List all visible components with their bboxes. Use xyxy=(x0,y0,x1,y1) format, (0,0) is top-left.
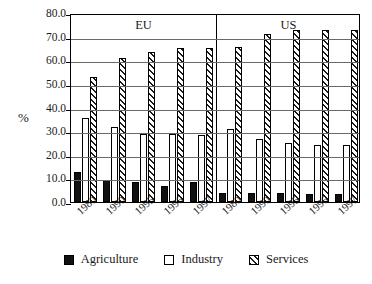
bar-agriculture-eu-1990 xyxy=(103,180,110,202)
y-tick-mark xyxy=(66,110,71,111)
gridline xyxy=(71,110,359,111)
y-tick-mark xyxy=(66,157,71,158)
y-tick-label: 50.0 xyxy=(24,79,66,91)
gridline xyxy=(71,39,359,40)
bar-agriculture-eu-1996 xyxy=(161,186,168,202)
bar-agriculture-eu-1980 xyxy=(74,172,81,202)
bar-chart: % 80.070.060.050.040.030.020.010.00.0 EU… xyxy=(0,0,372,284)
bar-agriculture-us-1990 xyxy=(248,193,255,202)
bar-services-eu-1997 xyxy=(206,48,213,202)
bar-industry-eu-1997 xyxy=(198,135,205,202)
bar-services-us-1997 xyxy=(351,30,358,202)
y-tick-mark xyxy=(66,39,71,40)
legend-item-industry[interactable]: Industry xyxy=(164,252,223,267)
region-divider xyxy=(216,15,217,202)
y-tick-label: 20.0 xyxy=(24,150,66,162)
y-tick-label: 40.0 xyxy=(24,103,66,115)
bar-agriculture-eu-1997 xyxy=(190,182,197,202)
bar-agriculture-eu-1995 xyxy=(132,182,139,202)
y-tick-mark xyxy=(66,86,71,87)
y-tick-mark xyxy=(66,204,71,205)
bar-industry-us-1990 xyxy=(256,139,263,202)
bar-services-us-1996 xyxy=(322,30,329,202)
y-tick-label: 60.0 xyxy=(24,55,66,67)
legend-label: Agriculture xyxy=(81,252,139,267)
y-tick-label: 70.0 xyxy=(24,32,66,44)
bar-industry-eu-1980 xyxy=(82,118,89,202)
bar-services-us-1995 xyxy=(293,30,300,202)
legend-label: Services xyxy=(266,252,308,267)
legend-label: Industry xyxy=(181,252,223,267)
legend-item-services[interactable]: Services xyxy=(249,252,308,267)
bar-industry-us-1980 xyxy=(227,129,234,202)
y-tick-mark xyxy=(66,133,71,134)
bar-group-eu-1997 xyxy=(190,15,213,202)
bar-agriculture-us-1980 xyxy=(219,193,226,202)
bar-group-eu-1990 xyxy=(103,15,126,202)
bar-group-us-1996 xyxy=(306,15,329,202)
bar-services-eu-1996 xyxy=(177,48,184,202)
bar-industry-eu-1995 xyxy=(140,134,147,202)
services-swatch-icon xyxy=(249,255,259,265)
y-tick-label: 30.0 xyxy=(24,126,66,138)
bar-group-us-1997 xyxy=(335,15,358,202)
gridline xyxy=(71,62,359,63)
bar-group-us-1980 xyxy=(219,15,242,202)
gridline xyxy=(71,180,359,181)
y-tick-label: 10.0 xyxy=(24,173,66,185)
bar-agriculture-us-1995 xyxy=(277,193,284,202)
industry-swatch-icon xyxy=(164,255,174,265)
y-tick-mark xyxy=(66,15,71,16)
bar-group-us-1990 xyxy=(248,15,271,202)
bar-group-eu-1980 xyxy=(74,15,97,202)
bar-industry-eu-1996 xyxy=(169,134,176,202)
chart-legend: AgricultureIndustryServices xyxy=(0,252,372,267)
bar-services-eu-1980 xyxy=(90,77,97,202)
y-tick-mark xyxy=(66,180,71,181)
gridline xyxy=(71,133,359,134)
bar-group-eu-1995 xyxy=(132,15,155,202)
agriculture-swatch-icon xyxy=(64,255,74,265)
bar-industry-eu-1990 xyxy=(111,127,118,202)
gridline xyxy=(71,86,359,87)
bar-services-us-1990 xyxy=(264,34,271,202)
y-axis-tick-labels: 80.070.060.050.040.030.020.010.00.0 xyxy=(24,0,66,284)
x-axis-tick-labels: 1980199019951996199719801990199519961997 xyxy=(70,206,360,246)
bar-industry-us-1995 xyxy=(285,143,292,202)
y-tick-label: 0.0 xyxy=(24,197,66,209)
bar-group-us-1995 xyxy=(277,15,300,202)
gridline xyxy=(71,157,359,158)
plot-area: EUUS xyxy=(70,14,360,203)
y-tick-label: 80.0 xyxy=(24,8,66,20)
bar-services-us-1980 xyxy=(235,47,242,202)
y-tick-mark xyxy=(66,62,71,63)
bar-group-eu-1996 xyxy=(161,15,184,202)
legend-item-agriculture[interactable]: Agriculture xyxy=(64,252,139,267)
